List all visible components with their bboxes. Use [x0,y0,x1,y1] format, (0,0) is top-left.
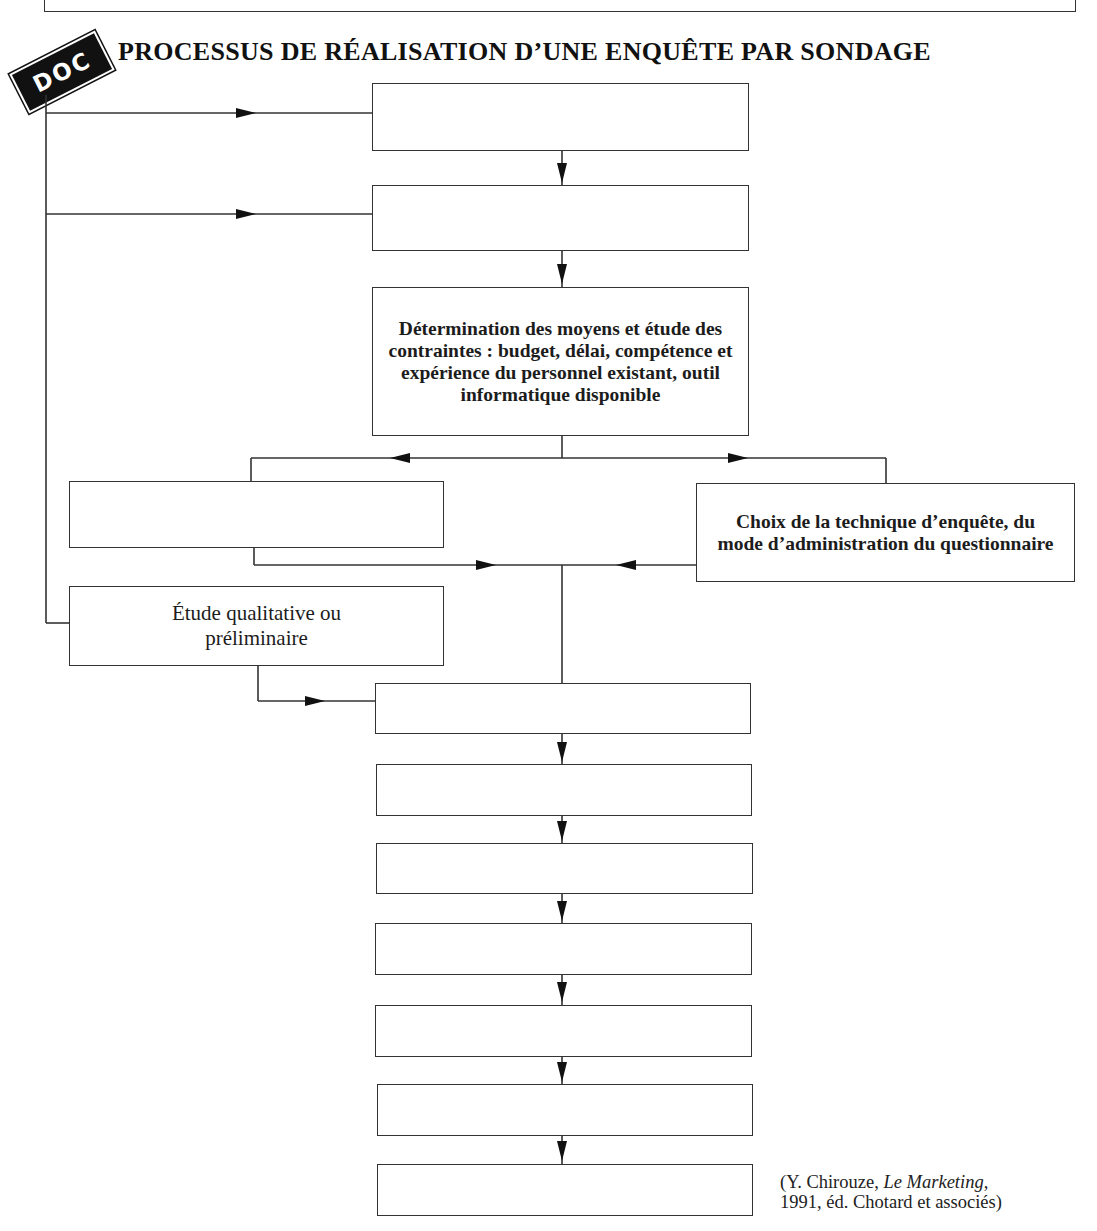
source-comma: , [984,1172,989,1192]
step-box-2[interactable] [372,185,749,251]
step-box-qualitative-study: Étude qualitative ou préliminaire [69,586,444,666]
step-box-8[interactable] [376,843,753,894]
step-box-means-constraints: Détermination des moyens et étude des co… [372,287,749,436]
step-box-9[interactable] [375,923,752,975]
step-box-6[interactable] [375,683,751,734]
step-box-10[interactable] [375,1005,752,1057]
source-publisher: 1991, éd. Chotard et associés) [780,1192,1002,1212]
source-author: (Y. Chirouze, [780,1172,883,1192]
step-box-survey-technique: Choix de la technique d’enquête, du mode… [696,483,1075,582]
step-box-left-branch[interactable] [69,481,444,548]
step-box-1[interactable] [372,83,749,151]
step-box-7[interactable] [376,764,752,816]
step-box-11[interactable] [377,1084,753,1136]
step-box-12[interactable] [377,1164,753,1216]
source-book-title: Le Marketing [883,1172,983,1192]
source-citation: (Y. Chirouze, Le Marketing, 1991, éd. Ch… [780,1172,1002,1212]
